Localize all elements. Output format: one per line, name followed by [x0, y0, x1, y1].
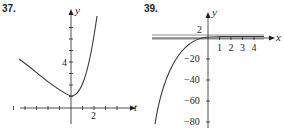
x-tick-label-2: 2	[91, 110, 96, 121]
y-axis-label: y	[211, 6, 217, 18]
x-tick-label-2: 2	[229, 42, 234, 53]
x-axis-label: t	[134, 101, 138, 113]
y-axis-arrow-icon	[206, 12, 211, 18]
x-axis-label: x	[275, 31, 281, 43]
x-axis-arrow-icon	[269, 36, 275, 41]
y-tick-label-4: 4	[62, 57, 67, 68]
x-tick-label-3: 3	[240, 42, 245, 53]
curve-37	[19, 16, 97, 96]
y-tick-label-neg80: −80	[184, 116, 200, 127]
y-axis-label: y	[74, 4, 80, 16]
y-axis-arrow-icon	[69, 9, 74, 15]
x-tick-label-4: 4	[252, 42, 257, 53]
y-tick-label-neg40: −40	[184, 74, 200, 85]
graph-37-plot: 4 2 y t	[0, 0, 142, 132]
y-tick-label-neg20: −20	[184, 53, 200, 64]
x-tick-label-1: 1	[217, 42, 222, 53]
graph-39: 39. 2 −20 −40 −60 −80 1 2	[142, 0, 284, 132]
y-tick-label-neg60: −60	[184, 95, 200, 106]
graph-37: 37. 4 2	[0, 0, 142, 132]
graph-39-plot: 2 −20 −40 −60 −80 1 2 3 4 y x	[142, 0, 284, 132]
y-tick-label-2: 2	[197, 24, 202, 35]
